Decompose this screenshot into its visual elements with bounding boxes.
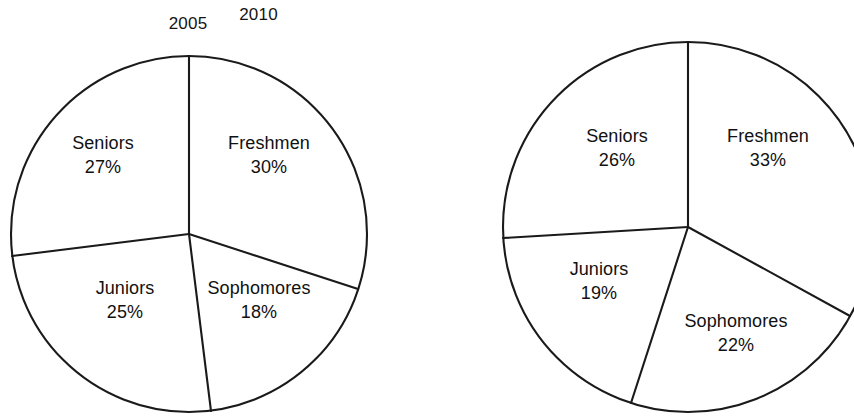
pie-2010-seniors-value: 26%: [542, 148, 692, 172]
pie-2005-slice-label-freshmen: Freshmen 30%: [188, 131, 350, 179]
pie-2010-slice-label-freshmen: Freshmen 33%: [692, 124, 844, 172]
pie-2010-seniors-name: Seniors: [542, 124, 692, 148]
pie-2010-freshmen-name: Freshmen: [692, 124, 844, 148]
pie-2005-juniors-value: 25%: [50, 300, 200, 324]
pie-2005-seniors-value: 27%: [28, 155, 178, 179]
pie-2005-freshmen-name: Freshmen: [188, 131, 350, 155]
pie-2010-juniors-value: 19%: [524, 281, 674, 305]
pie-2010-sophomores-value: 22%: [662, 333, 810, 357]
pie-chart-figure: 2005 Seniors 27% Freshmen 30% Juniors 25…: [0, 0, 854, 419]
pie-2010-slice-label-seniors: Seniors 26%: [542, 124, 692, 172]
pie-2005-seniors-name: Seniors: [28, 131, 178, 155]
chart-title-2010: 2010: [0, 6, 517, 23]
pie-2005-sophomores-value: 18%: [186, 300, 332, 324]
pie-2005-freshmen-value: 30%: [188, 155, 350, 179]
pie-2010-slice-label-sophomores: Sophomores 22%: [662, 309, 810, 357]
pie-2005-slice-label-juniors: Juniors 25%: [50, 276, 200, 324]
pie-2010-freshmen-value: 33%: [692, 148, 844, 172]
pie-2005-slice-label-seniors: Seniors 27%: [28, 131, 178, 179]
pie-2005-juniors-name: Juniors: [50, 276, 200, 300]
pie-2010-slice-label-juniors: Juniors 19%: [524, 257, 674, 305]
pie-2010-juniors-name: Juniors: [524, 257, 674, 281]
pie-2010-sophomores-name: Sophomores: [662, 309, 810, 333]
pie-2005-slice-label-sophomores: Sophomores 18%: [186, 276, 332, 324]
chart-panel-2005: 2005 Seniors 27% Freshmen 30% Juniors 25…: [0, 0, 427, 419]
pie-2005-sophomores-name: Sophomores: [186, 276, 332, 300]
